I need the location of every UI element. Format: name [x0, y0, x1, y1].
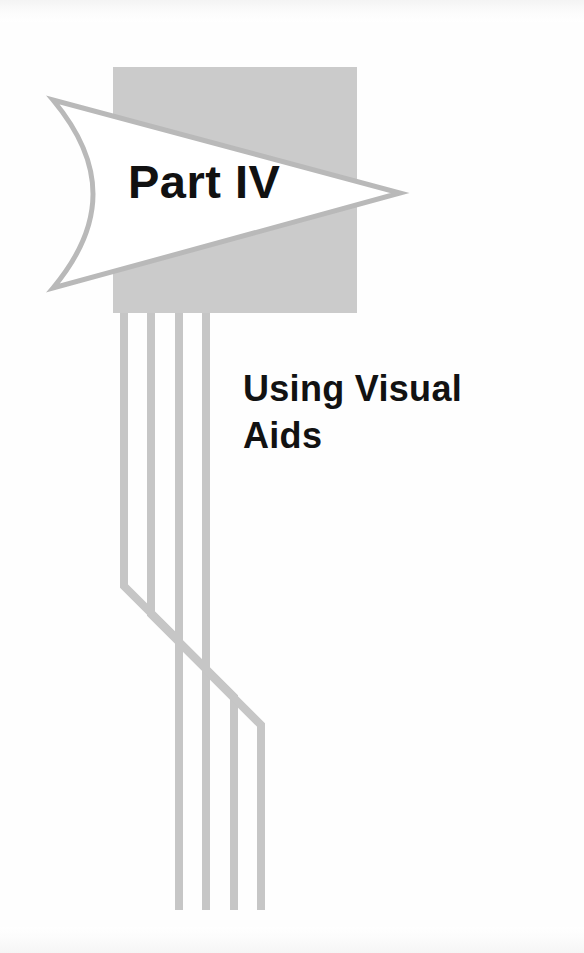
- part-title-line-1: Using Visual: [243, 365, 543, 412]
- part-title-line-2: Aids: [243, 412, 543, 459]
- part-divider-page: Part IV Using Visual Aids: [0, 0, 584, 953]
- part-divider-artwork: [0, 0, 584, 953]
- ribbon-cable-traces: [124, 313, 261, 910]
- part-title: Using Visual Aids: [243, 365, 543, 459]
- part-number-label: Part IV: [128, 157, 358, 207]
